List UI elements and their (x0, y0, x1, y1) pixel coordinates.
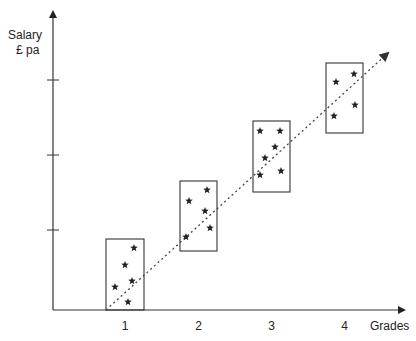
star-marker (350, 70, 358, 77)
grade-2-box (180, 181, 217, 251)
x-tick-label: 3 (268, 319, 275, 333)
salary-grade-chart: Salary £ pa Grades 1234 (0, 0, 416, 341)
star-marker (201, 207, 209, 214)
x-tick-label: 1 (122, 319, 129, 333)
star-marker (111, 283, 119, 290)
star-marker (124, 298, 132, 305)
star-marker (206, 224, 214, 231)
grade-4-box (326, 63, 363, 133)
chart-container: Salary £ pa Grades 1234 (0, 0, 416, 341)
star-marker (277, 167, 285, 174)
star-marker (261, 154, 269, 161)
x-tick-labels: 1234 (122, 319, 349, 333)
star-marker (271, 143, 279, 150)
x-axis-label: Grades (370, 319, 409, 333)
star-marker (185, 197, 193, 204)
star-marker (182, 233, 190, 240)
star-marker (121, 261, 129, 268)
grade-boxes (106, 63, 363, 310)
star-marker (351, 101, 359, 108)
x-tick-label: 2 (195, 319, 202, 333)
y-axis-label-line1: Salary (8, 28, 42, 42)
star-marker (332, 78, 340, 85)
star-marker (256, 171, 264, 178)
star-marker (130, 244, 138, 251)
trend-line (106, 53, 388, 310)
star-marker (330, 112, 338, 119)
star-marker (128, 277, 136, 284)
star-marker (276, 127, 284, 134)
x-tick-label: 4 (341, 319, 348, 333)
y-axis-label-line2: £ pa (16, 43, 40, 57)
star-marker (256, 127, 264, 134)
data-points (111, 70, 359, 305)
star-marker (203, 186, 211, 193)
grade-1-box (106, 239, 144, 310)
